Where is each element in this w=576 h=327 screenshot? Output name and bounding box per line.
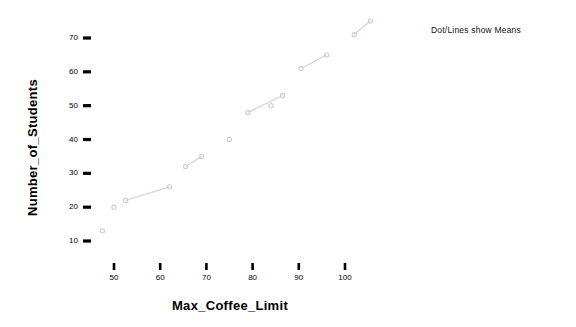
mean-line-segment <box>186 156 202 166</box>
y-tick-mark <box>83 104 91 107</box>
x-tick-mark <box>159 263 162 270</box>
y-tick-mark <box>83 172 91 175</box>
data-point-marker <box>184 164 188 168</box>
mean-line-segment <box>354 21 370 35</box>
x-tick-label: 90 <box>287 273 311 282</box>
x-tick-mark <box>344 263 347 270</box>
data-point-marker <box>227 137 231 141</box>
data-point-marker <box>100 229 104 233</box>
y-tick-mark <box>83 36 91 39</box>
y-tick-label: 70 <box>56 33 78 42</box>
data-point-marker <box>269 104 273 108</box>
y-tick-label: 20 <box>56 202 78 211</box>
data-point-marker <box>200 154 204 158</box>
x-tick-label: 80 <box>241 273 265 282</box>
x-tick-mark <box>205 263 208 270</box>
data-point-marker <box>352 33 356 37</box>
mean-line-segment <box>301 55 326 69</box>
y-axis-title: Number_of_Students <box>25 58 40 238</box>
y-tick-label: 40 <box>56 135 78 144</box>
x-tick-label: 50 <box>102 273 126 282</box>
y-tick-label: 60 <box>56 67 78 76</box>
x-tick-label: 100 <box>333 273 357 282</box>
x-tick-mark <box>113 263 116 270</box>
y-tick-mark <box>83 239 91 242</box>
chart-annotation: Dot/Lines show Means <box>431 25 521 35</box>
y-tick-mark <box>83 70 91 73</box>
mean-dot-markers-group <box>100 19 372 233</box>
mean-line-segment <box>126 187 170 201</box>
data-point-marker <box>112 205 116 209</box>
y-tick-label: 50 <box>56 101 78 110</box>
x-tick-mark <box>298 263 301 270</box>
x-tick-label: 60 <box>148 273 172 282</box>
x-axis-title: Max_Coffee_Limit <box>110 298 350 313</box>
y-tick-label: 10 <box>56 236 78 245</box>
y-tick-mark <box>83 138 91 141</box>
y-tick-mark <box>83 206 91 209</box>
mean-line-segment <box>248 96 283 113</box>
tick-marks-group <box>83 36 346 270</box>
x-tick-mark <box>251 263 254 270</box>
chart-container: Number_of_Students Max_Coffee_Limit 1020… <box>0 0 576 327</box>
x-tick-label: 70 <box>194 273 218 282</box>
y-tick-label: 30 <box>56 168 78 177</box>
